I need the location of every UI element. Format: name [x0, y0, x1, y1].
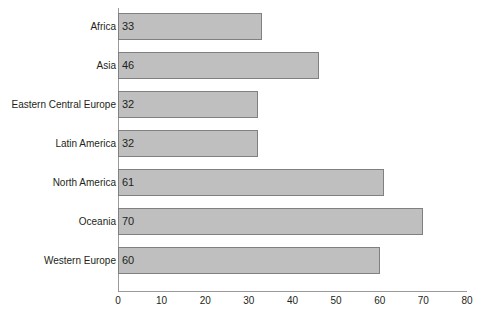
- bar-row: Oceania 70: [0, 208, 498, 235]
- bar-row: Asia 46: [0, 52, 498, 79]
- bar-value-label: 70: [122, 208, 134, 235]
- bars-layer: Africa 33 Asia 46 Eastern Central Europe…: [0, 0, 498, 291]
- bar: [118, 13, 262, 40]
- bar: [118, 247, 380, 274]
- category-label: Western Europe: [44, 247, 116, 274]
- bar-value-label: 46: [122, 52, 134, 79]
- bar: [118, 130, 258, 157]
- x-axis-line: [118, 291, 467, 292]
- x-tick-label: 60: [360, 295, 400, 306]
- bar-value-label: 32: [122, 130, 134, 157]
- category-label: Latin America: [55, 130, 116, 157]
- category-label: Oceania: [79, 208, 116, 235]
- bar-chart: Africa 33 Asia 46 Eastern Central Europe…: [0, 0, 498, 327]
- x-tick-label: 30: [229, 295, 269, 306]
- bar-row: Eastern Central Europe 32: [0, 91, 498, 118]
- x-tick-label: 80: [447, 295, 487, 306]
- bar: [118, 91, 258, 118]
- bar-row: Latin America 32: [0, 130, 498, 157]
- category-label: North America: [53, 169, 116, 196]
- bar-value-label: 32: [122, 91, 134, 118]
- bar: [118, 169, 384, 196]
- bar: [118, 52, 319, 79]
- bar-row: Africa 33: [0, 13, 498, 40]
- bar-value-label: 33: [122, 13, 134, 40]
- bar-row: Western Europe 60: [0, 247, 498, 274]
- x-tick-label: 50: [316, 295, 356, 306]
- bar-value-label: 61: [122, 169, 134, 196]
- bar-value-label: 60: [122, 247, 134, 274]
- x-tick-label: 40: [273, 295, 313, 306]
- x-tick-label: 70: [403, 295, 443, 306]
- category-label: Africa: [90, 13, 116, 40]
- category-label: Eastern Central Europe: [11, 91, 116, 118]
- bar: [118, 208, 423, 235]
- category-label: Asia: [97, 52, 116, 79]
- x-tick-label: 10: [142, 295, 182, 306]
- x-tick-label: 20: [185, 295, 225, 306]
- bar-row: North America 61: [0, 169, 498, 196]
- x-tick-label: 0: [98, 295, 138, 306]
